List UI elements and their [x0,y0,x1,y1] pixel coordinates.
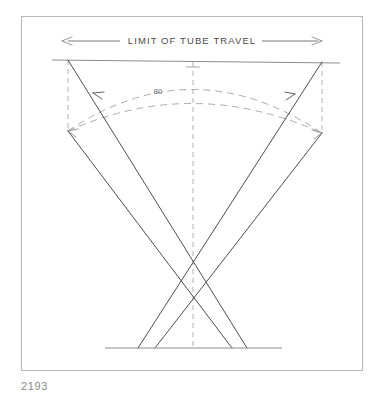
dimension-title-label: LIMIT OF TUBE TRAVEL [128,35,256,46]
tube-travel-diagram: LIMIT OF TUBE TRAVEL [0,0,381,405]
figure-container: LIMIT OF TUBE TRAVEL [0,0,381,405]
figure-number-label: 2193 [21,380,48,392]
angle-value-label: 80 [154,87,163,96]
diagram-frame [22,17,363,371]
